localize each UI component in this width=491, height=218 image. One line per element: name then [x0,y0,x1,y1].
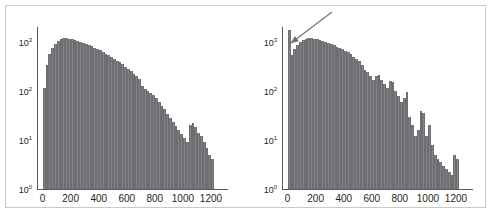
chart-panel-left: 100101102103 020040060080010001200 [0,5,245,213]
y-tick-label: 101 [247,135,277,146]
y-tick-label: 103 [247,37,277,48]
histogram-bars-right [282,27,470,189]
y-tick-label: 103 [2,37,32,48]
x-axis-line-left [37,189,228,190]
y-tick-label: 102 [247,86,277,97]
y-tick-label: 102 [2,86,32,97]
chart-panel-right: 100101102103 020040060080010001200 [245,5,490,213]
figure-container: 100101102103 020040060080010001200 10010… [0,0,491,218]
plot-area-right [282,27,470,189]
histogram-bars-left [37,27,225,189]
histogram-bar [211,159,214,189]
x-tick-label: 1200 [191,193,231,204]
plot-area-left [37,27,225,189]
y-tick-label: 101 [2,135,32,146]
x-axis-line-right [282,189,473,190]
histogram-bar [456,159,459,189]
x-tick-label: 1200 [436,193,476,204]
